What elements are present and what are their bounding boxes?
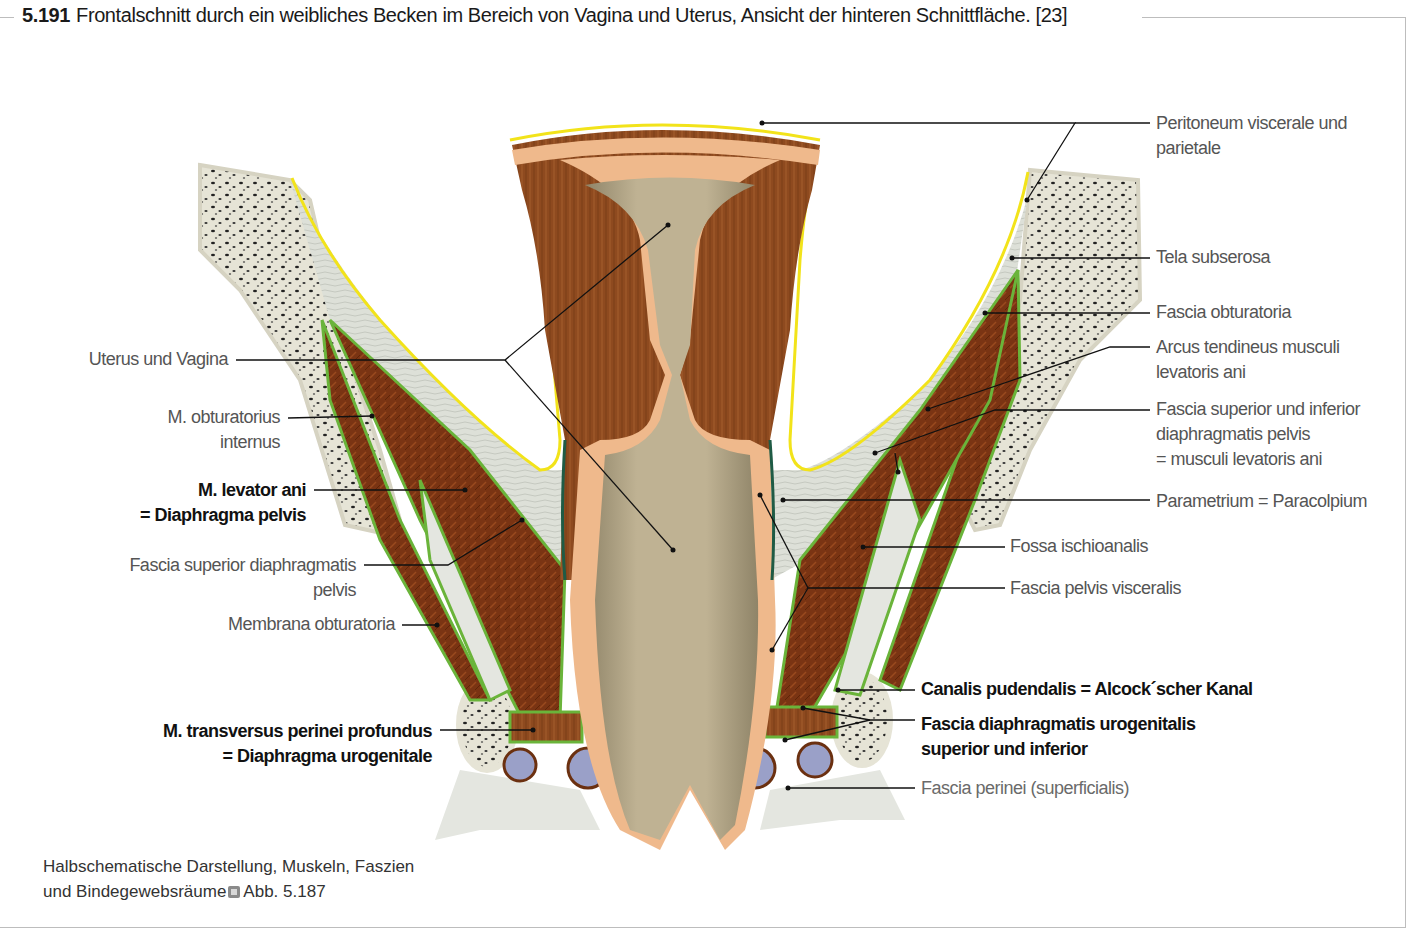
label-line: M. obturatorius	[80, 405, 280, 430]
label-m-transversus-perinei-profundus: M. transversus perinei profundus = Diaph…	[100, 719, 432, 769]
label-line: Fascia superior diaphragmatis	[60, 553, 356, 578]
figure-note: Halbschematische Darstellung, Muskeln, F…	[43, 854, 414, 904]
label-m-obturatorius-internus: M. obturatorius internus	[80, 405, 280, 455]
label-line: Arcus tendineus musculi	[1156, 335, 1340, 360]
label-line: Fossa ischioanalis	[1010, 534, 1148, 559]
label-line: parietale	[1156, 136, 1347, 161]
label-fascia-perinei: Fascia perinei (superficialis)	[921, 776, 1129, 801]
label-fascia-pelvis-visceralis: Fascia pelvis visceralis	[1010, 576, 1181, 601]
perineal-tissue-right	[760, 770, 905, 830]
note-line-2: und BindegewebsräumeAbb. 5.187	[43, 879, 414, 904]
label-line: superior und inferior	[921, 737, 1196, 762]
label-line: Fascia pelvis visceralis	[1010, 576, 1181, 601]
label-arcus-tendineus: Arcus tendineus musculi levatoris ani	[1156, 335, 1340, 385]
label-line: Fascia perinei (superficialis)	[921, 776, 1129, 801]
label-fascia-diaphragmatis-urogenitalis: Fascia diaphragmatis urogenitalis superi…	[921, 712, 1196, 762]
label-line: Fascia obturatoria	[1156, 300, 1291, 325]
note-line-2-text: und Bindegewebsräume	[43, 882, 226, 901]
label-line: Canalis pudendalis = Alcock´scher Kanal	[921, 677, 1252, 702]
label-line: Parametrium = Paracolpium	[1156, 489, 1367, 514]
label-fossa-ischioanalis: Fossa ischioanalis	[1010, 534, 1148, 559]
label-line: Tela subserosa	[1156, 245, 1270, 270]
label-parametrium: Parametrium = Paracolpium	[1156, 489, 1367, 514]
label-m-levator-ani: M. levator ani = Diaphragma pelvis	[80, 478, 306, 528]
label-line: Peritoneum viscerale und	[1156, 111, 1347, 136]
label-uterus-vagina: Uterus und Vagina	[40, 347, 228, 372]
label-fascia-superior-inferior: Fascia superior und inferior diaphragmat…	[1156, 397, 1360, 472]
right-vessel-2	[798, 743, 832, 777]
label-fascia-superior-diaphragmatis-pelvis: Fascia superior diaphragmatis pelvis	[60, 553, 356, 603]
cross-reference-icon	[228, 886, 240, 898]
label-canalis-pudendalis: Canalis pudendalis = Alcock´scher Kanal	[921, 677, 1252, 702]
label-fascia-obturatoria: Fascia obturatoria	[1156, 300, 1291, 325]
label-line: M. transversus perinei profundus	[100, 719, 432, 744]
label-peritoneum: Peritoneum viscerale und parietale	[1156, 111, 1347, 161]
label-line: pelvis	[60, 578, 356, 603]
label-line: Uterus und Vagina	[40, 347, 228, 372]
label-line: Fascia diaphragmatis urogenitalis	[921, 712, 1196, 737]
label-line: Membrana obturatoria	[150, 612, 395, 637]
label-line: M. levator ani	[80, 478, 306, 503]
figure-reference-link[interactable]: Abb. 5.187	[243, 882, 325, 901]
left-transversus-perinei	[510, 712, 582, 742]
label-line: diaphragmatis pelvis	[1156, 422, 1360, 447]
label-line: internus	[80, 430, 280, 455]
label-line: Fascia superior und inferior	[1156, 397, 1360, 422]
label-tela-subserosa: Tela subserosa	[1156, 245, 1270, 270]
note-line-1: Halbschematische Darstellung, Muskeln, F…	[43, 854, 414, 879]
label-line: = Diaphragma urogenitale	[100, 744, 432, 769]
label-membrana-obturatoria: Membrana obturatoria	[150, 612, 395, 637]
label-line: levatoris ani	[1156, 360, 1340, 385]
label-line: = Diaphragma pelvis	[80, 503, 306, 528]
label-line: = musculi levatoris ani	[1156, 447, 1360, 472]
left-vessel-1	[504, 749, 536, 781]
